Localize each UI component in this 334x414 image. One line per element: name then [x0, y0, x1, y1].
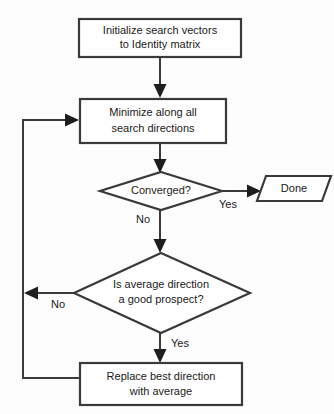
- node-done-label: Done: [281, 182, 307, 194]
- node-initialize-search-vectors[interactable]: Initialize search vectors to Identity ma…: [79, 19, 241, 57]
- arrow-head-icon: [65, 114, 79, 127]
- node-minimize-along-directions[interactable]: Minimize along all search directions: [80, 99, 226, 143]
- connector-converged-yes-to-done: [222, 185, 261, 198]
- connector-minimize-to-converged: [154, 143, 167, 173]
- arrow-head-icon: [154, 349, 167, 363]
- edge-label-converged-no: No: [136, 213, 150, 225]
- arrow-head-icon: [154, 159, 167, 173]
- node-done-terminator[interactable]: Done: [257, 176, 331, 201]
- edge-label-prospect-no: No: [51, 298, 65, 310]
- node-replace-line-2: with average: [129, 385, 192, 397]
- node-prospect-line-1: Is average direction: [113, 278, 209, 290]
- connector-converged-no-to-prospect: [154, 210, 167, 253]
- node-initialize-line-1: Initialize search vectors: [103, 24, 218, 36]
- node-initialize-line-2: to Identity matrix: [120, 38, 201, 50]
- edge-label-prospect-yes: Yes: [171, 337, 189, 349]
- node-minimize-line-2: search directions: [111, 122, 195, 134]
- arrow-head-icon: [154, 84, 167, 98]
- node-minimize-line-1: Minimize along all: [109, 106, 196, 118]
- connector-prospect-no-to-loop: [24, 287, 75, 300]
- edge-label-converged-yes: Yes: [219, 198, 237, 210]
- connector-prospect-yes-to-replace: [154, 333, 167, 363]
- node-average-direction-prospect-decision[interactable]: Is average direction a good prospect?: [74, 253, 250, 333]
- node-converged-decision[interactable]: Converged?: [100, 172, 222, 210]
- arrow-head-icon: [24, 287, 38, 300]
- arrow-head-icon: [154, 239, 167, 253]
- node-prospect-line-2: a good prospect?: [118, 293, 203, 305]
- node-converged-label: Converged?: [131, 184, 191, 196]
- connector-init-to-minimize: [154, 57, 167, 98]
- node-replace-best-direction[interactable]: Replace best direction with average: [80, 363, 242, 405]
- flowchart-canvas: Initialize search vectors to Identity ma…: [0, 0, 334, 414]
- flowchart-svg: Initialize search vectors to Identity ma…: [0, 0, 334, 414]
- connector-loop-back-to-minimize: [22, 114, 79, 380]
- node-replace-line-1: Replace best direction: [107, 370, 216, 382]
